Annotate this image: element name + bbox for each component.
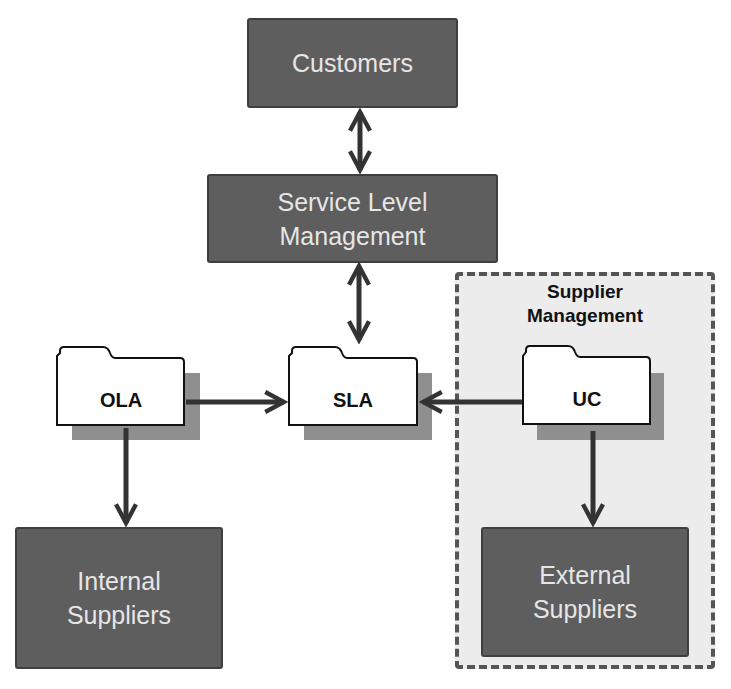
diagram-graphics [0,0,731,689]
uc-folder-icon [523,346,650,424]
uc-label: UC [523,388,651,411]
ola-folder-icon [57,347,184,425]
sla-folder-icon [289,347,417,425]
sla-label: SLA [289,389,417,412]
ola-label: OLA [57,389,185,412]
